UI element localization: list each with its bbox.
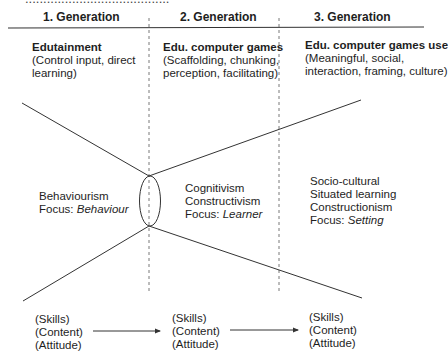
header-generation-2: 2. Generation bbox=[180, 10, 257, 24]
gen3-theory: Socio-cultural Situated learning Constru… bbox=[310, 175, 396, 227]
gen1-title: Edutainment bbox=[32, 41, 136, 54]
gen3-description: Edu. computer games use (Meaningful, soc… bbox=[305, 39, 448, 78]
gen3-outcomes: (Skills) (Content) (Attitude) bbox=[309, 311, 357, 350]
gen3-title: Edu. computer games use bbox=[305, 39, 448, 52]
gen2-title: Edu. computer games bbox=[163, 41, 283, 54]
transition-ellipse bbox=[140, 176, 161, 226]
gen2-description: Edu. computer games (Scaffolding, chunki… bbox=[163, 41, 283, 80]
funnel-lower-right bbox=[149, 226, 362, 298]
gen2-focus: Learner bbox=[223, 208, 263, 220]
header-rule bbox=[8, 27, 424, 28]
funnel-upper-left bbox=[22, 103, 149, 176]
gen2-theory: Cognitivism Constructivism Focus: Learne… bbox=[185, 182, 262, 221]
clipped-caption: ........................................ bbox=[25, 0, 169, 6]
gen2-outcomes: (Skills) (Content) (Attitude) bbox=[172, 312, 220, 351]
gen1-description: Edutainment (Control input, direct learn… bbox=[32, 41, 136, 80]
funnel-upper-right bbox=[149, 100, 361, 176]
gen1-focus: Behaviour bbox=[77, 203, 129, 215]
gen3-focus: Setting bbox=[348, 214, 384, 226]
funnel-lower-left bbox=[23, 226, 149, 301]
header-generation-3: 3. Generation bbox=[314, 10, 391, 24]
gen1-outcomes: (Skills) (Content) (Attitude) bbox=[35, 313, 83, 352]
header-generation-1: 1. Generation bbox=[43, 10, 120, 24]
gen1-theory: Behaviourism Focus: Behaviour bbox=[39, 190, 129, 216]
